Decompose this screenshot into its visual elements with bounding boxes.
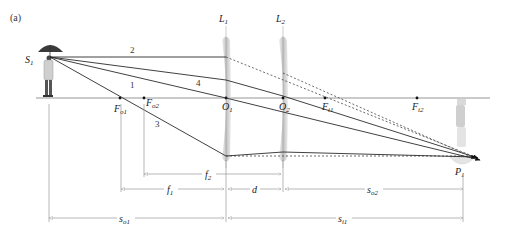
lens-l2-label: L2 [275, 13, 286, 26]
panel-label: (a) [10, 12, 21, 24]
ray-number-2: 2 [130, 45, 135, 55]
ray-number-1: 1 [130, 80, 135, 90]
object-person-with-umbrella-icon [38, 45, 63, 97]
lens-center-o2-dot [282, 97, 285, 100]
focal-label-fi1: Fi1 [321, 101, 334, 114]
focal-point-fi1-dot [324, 97, 327, 100]
ray-number-4: 4 [196, 78, 201, 88]
two-lens-optics-diagram: (a) L1 L2 S1 P1 Fo1 Fo2 O1 O2 F [0, 0, 510, 239]
focal-point-fi2-dot [416, 97, 419, 100]
ray-number-3: 3 [155, 119, 160, 129]
focal-label-fi2: Fi2 [411, 101, 424, 114]
focal-label-fo2: Fo2 [145, 97, 160, 110]
image-inverted-person-icon [449, 99, 476, 164]
ray-dashed-guide [283, 73, 472, 157]
object-label-s1: S1 [25, 54, 34, 67]
focal-point-fo2-dot [143, 97, 146, 100]
ray-2-dashed-extension [226, 57, 470, 155]
focal-label-fo1: Fo1 [113, 103, 127, 116]
ray-3 [50, 57, 226, 156]
lens-l1-label: L1 [218, 13, 228, 26]
